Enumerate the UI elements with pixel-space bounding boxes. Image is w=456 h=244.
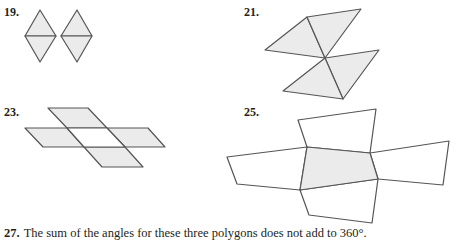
answer-27-number: 27. [4, 226, 20, 240]
answer-27-text: The sum of the angles for these three po… [24, 226, 367, 240]
figures-canvas [0, 0, 456, 244]
figure-21 [265, 9, 379, 99]
figure-25 [227, 109, 449, 223]
figure-19 [25, 10, 92, 62]
answer-27: 27.The sum of the angles for these three… [4, 226, 367, 241]
figure-23 [25, 108, 165, 167]
